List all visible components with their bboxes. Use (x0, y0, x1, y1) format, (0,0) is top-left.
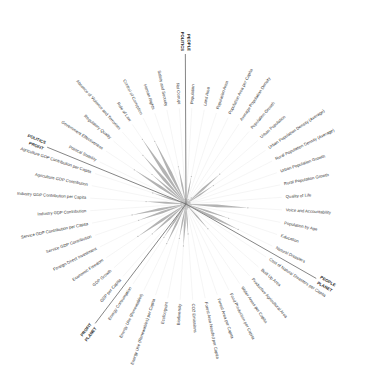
category-label: Built Up Area (260, 267, 282, 287)
data-point (134, 169, 135, 170)
category-label: Industry GDP Contribution (37, 208, 87, 216)
spoke-line (100, 204, 186, 247)
category-label: Rural Population Density (Average) (274, 127, 335, 161)
data-point (213, 185, 214, 186)
category-label: Political Stability (68, 144, 98, 162)
category-label: Urban Population Growth (280, 153, 327, 173)
data-point (207, 228, 208, 229)
category-label: Industry GDP Contribution per Capita (17, 191, 87, 200)
group-divider-line (95, 204, 186, 323)
spoke-line (186, 204, 229, 290)
data-point (151, 174, 152, 175)
category-label: Safety and Security (157, 70, 169, 107)
category-label: Land Area (202, 86, 211, 106)
category-label: Quality of Life (286, 192, 313, 199)
data-point (186, 208, 187, 209)
category-label: Forest Area per Capita (217, 298, 236, 340)
data-point (142, 155, 143, 156)
category-label: Agriculture GDP Contribution (35, 172, 90, 187)
spoke-line (186, 161, 272, 204)
spoke-line (186, 118, 228, 204)
data-point (142, 139, 143, 140)
category-label: Rural Population Growth (283, 172, 329, 186)
data-point (137, 236, 138, 237)
data-point (188, 202, 189, 203)
data-point (183, 245, 184, 246)
data-point (190, 204, 191, 205)
data-point (187, 207, 188, 208)
category-label: Productive Agricultural Area (251, 277, 289, 319)
data-point (163, 237, 164, 238)
group-label: PEOPLE (186, 34, 191, 51)
data-point (187, 201, 188, 202)
spoke-line (186, 197, 282, 204)
data-point (145, 201, 146, 202)
data-point (180, 204, 181, 205)
data-point (238, 229, 239, 230)
data-point (166, 243, 167, 244)
data-point (188, 199, 189, 200)
data-point (187, 233, 188, 234)
data-point (138, 220, 139, 221)
category-label: Cost of Natural Disasters per Capita (268, 257, 327, 299)
data-point (187, 206, 188, 207)
data-point (184, 199, 185, 200)
category-label: GDP Growth (91, 268, 113, 288)
group-divider-line (185, 54, 186, 204)
category-label: Human Rights (143, 83, 156, 110)
data-point (188, 203, 189, 204)
data-point (178, 166, 179, 167)
category-label: Education (280, 233, 300, 244)
category-label: Ecofootprint (160, 301, 169, 325)
category-label: Urban Population Density (Average) (267, 108, 326, 150)
data-point (132, 214, 133, 215)
data-point (191, 197, 192, 198)
data-point (152, 192, 153, 193)
data-point (189, 207, 190, 208)
category-label: Not Corrupt (175, 82, 182, 105)
data-point (152, 233, 153, 234)
group-label: POLITICS (180, 32, 185, 52)
category-label: Population by Age (284, 220, 319, 231)
category-label: Biodiversity (176, 303, 182, 326)
data-point (247, 207, 248, 208)
category-label: CO2 Emissions (191, 304, 198, 333)
radar-chart: PopulationLand AreaPopulation AreaPopula… (0, 0, 376, 369)
category-label: Forest Area Needed per Capita (204, 301, 221, 359)
data-point (181, 206, 182, 207)
category-label: Voice and Accountability (286, 207, 332, 215)
category-label: Natural Disasters (275, 245, 306, 264)
data-point (228, 218, 229, 219)
data-point (184, 208, 185, 209)
data-point (179, 238, 180, 239)
data-point (154, 141, 155, 142)
category-label: Rule of Law (116, 101, 133, 123)
category-label: Population Area (215, 80, 229, 110)
data-point (191, 176, 192, 177)
category-label: Population (189, 84, 195, 105)
data-point (219, 174, 220, 175)
data-point (180, 202, 181, 203)
